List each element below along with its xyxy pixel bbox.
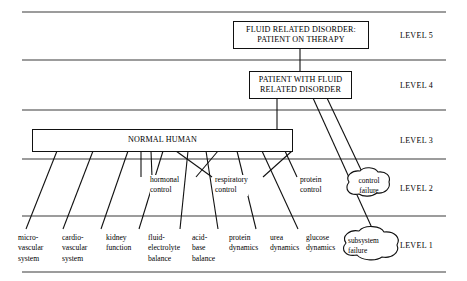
node-line-1: FLUID RELATED DISORDER: [246, 25, 356, 36]
leaf-line-1: acid- [192, 233, 215, 243]
connector-nh-to-cardio-vascular [63, 151, 93, 229]
leaf-line-3: balance [192, 254, 215, 264]
leaf-urea-dynamics: urea dynamics [270, 233, 299, 254]
leaf-line-2: dynamics [270, 243, 299, 253]
node-line-1: NORMAL HUMAN [128, 135, 197, 146]
label-line-2: control [150, 185, 179, 195]
label-hormonal-control: hormonal control [150, 175, 179, 196]
level-label-1: LEVEL 1 [400, 241, 433, 250]
leaf-fluid-electrolyte-balance: fluid- electrolyte balance [148, 233, 180, 264]
leaf-acid-base-balance: acid- base balance [192, 233, 215, 264]
label-respiratory-control: respiratory control [215, 175, 248, 196]
leaf-glucose-dynamics: glucose dynamics [306, 233, 335, 254]
connector-nh-to-micro-vascular [26, 151, 57, 229]
node-normal-human[interactable]: NORMAL HUMAN [32, 129, 293, 152]
leaf-line-1: micro- [18, 233, 43, 243]
label-control-failure: control failure [350, 176, 388, 195]
node-line-2: PATIENT ON THERAPY [257, 35, 345, 46]
connector-l4-to-subsystem-failure [313, 98, 372, 228]
node-patient-with-fluid-related-disorder[interactable]: PATIENT WITH FLUID RELATED DISORDER [249, 71, 352, 99]
leaf-line-3: system [62, 254, 87, 264]
connector-nh-to-acid-base [180, 151, 188, 229]
leaf-line-2: dynamics [306, 243, 335, 253]
label-line-2: control [215, 185, 248, 195]
label-line-1: protein [300, 175, 322, 185]
leaf-kidney-function: kidney function [106, 233, 131, 254]
leaf-line-2: vascular [62, 243, 87, 253]
label-line-1: control [350, 176, 388, 186]
leaf-line-2: function [106, 243, 131, 253]
label-line-1: respiratory [215, 175, 248, 185]
level-label-3: LEVEL 3 [400, 136, 433, 145]
label-protein-control: protein control [300, 175, 322, 196]
leaf-line-3: system [18, 254, 43, 264]
connector-nh-to-protein-control-b [263, 151, 292, 177]
connector-nh-to-hormonal-control [151, 151, 152, 177]
node-fluid-related-disorder-patient-on-therapy[interactable]: FLUID RELATED DISORDER: PATIENT ON THERA… [233, 21, 369, 49]
node-line-2: RELATED DISORDER [260, 85, 341, 96]
label-subsystem-failure: subsystem failure [348, 236, 392, 255]
leaf-line-2: vascular [18, 243, 43, 253]
leaf-line-1: protein [229, 233, 258, 243]
leaf-line-2: dynamics [229, 243, 258, 253]
connector-nh-to-kidney-function [101, 151, 128, 229]
leaf-line-1: urea [270, 233, 299, 243]
leaf-line-3: balance [148, 254, 180, 264]
label-line-1: hormonal [150, 175, 179, 185]
label-line-2: control [300, 185, 322, 195]
node-line-1: PATIENT WITH FLUID [259, 75, 343, 86]
leaf-line-2: electrolyte [148, 243, 180, 253]
leaf-micro-vascular-system: micro- vascular system [18, 233, 43, 264]
leaf-protein-dynamics: protein dynamics [229, 233, 258, 254]
connector-nh-to-protein-control [285, 151, 297, 177]
leaf-line-2: base [192, 243, 215, 253]
leaf-line-1: cardio- [62, 233, 87, 243]
connector-nh-to-glucose-dynamics [262, 151, 298, 229]
leaf-cardio-vascular-system: cardio- vascular system [62, 233, 87, 264]
leaf-line-1: glucose [306, 233, 335, 243]
level-label-2: LEVEL 2 [400, 184, 433, 193]
hierarchy-diagram: FLUID RELATED DISORDER: PATIENT ON THERA… [0, 0, 467, 281]
leaf-line-1: fluid- [148, 233, 180, 243]
label-line-2: failure [350, 186, 388, 196]
connector-l4-to-control-failure [327, 98, 363, 174]
level-label-5: LEVEL 5 [400, 31, 433, 40]
label-line-2: failure [348, 246, 392, 256]
leaf-line-1: kidney [106, 233, 131, 243]
label-line-1: subsystem [348, 236, 392, 246]
level-label-4: LEVEL 4 [400, 81, 433, 90]
